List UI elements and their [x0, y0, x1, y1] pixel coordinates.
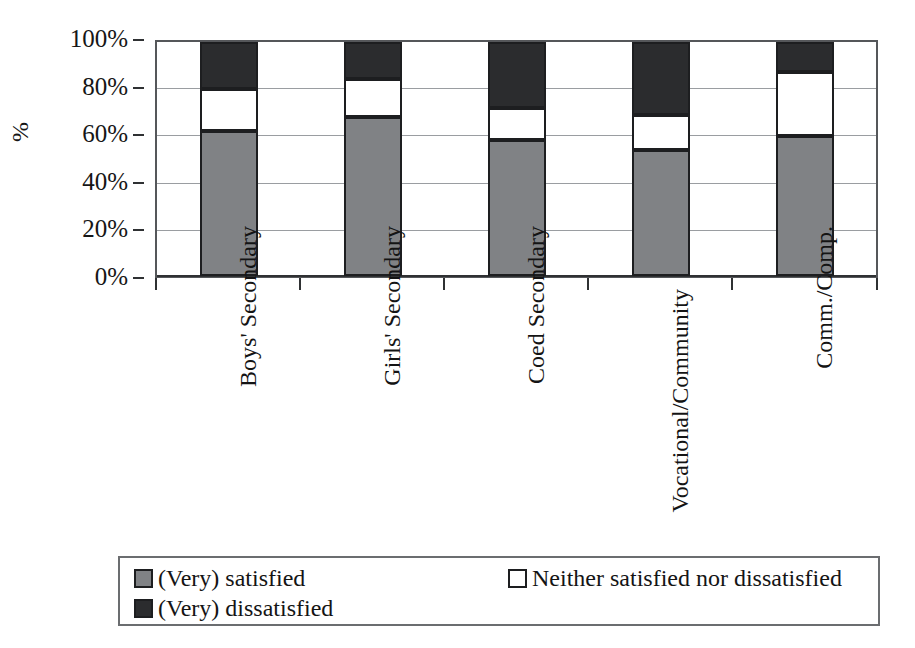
y-tick-mark — [133, 229, 144, 231]
y-tick-label: 0% — [95, 264, 128, 290]
legend-swatch-icon — [134, 569, 153, 588]
plot-area — [155, 40, 878, 278]
legend-item-satisfied[interactable]: (Very) satisfied — [134, 566, 305, 590]
y-tick-mark — [133, 277, 144, 279]
x-tick-mark — [155, 278, 157, 290]
bar-slot-2 — [445, 42, 589, 276]
y-tick-label: 80% — [82, 74, 128, 100]
chart-container: % 100% 80% 60% 40% 20% 0% — [0, 0, 915, 648]
bar-segment[interactable] — [632, 115, 690, 150]
bar-segment[interactable] — [632, 42, 690, 115]
x-axis-label-1: Girls' Secondary — [380, 226, 404, 466]
x-axis-label-0: Boys' Secondary — [236, 226, 260, 466]
x-axis-label-4: Comm./Comp. — [812, 226, 836, 466]
y-tick-label: 40% — [82, 169, 128, 195]
bar-segment[interactable] — [632, 150, 690, 276]
bar-slot-1 — [301, 42, 445, 276]
bar-segment[interactable] — [776, 72, 834, 135]
y-tick-mark — [133, 134, 144, 136]
table-row[interactable] — [632, 42, 690, 276]
x-tick-mark — [876, 278, 878, 290]
y-axis-title: % — [8, 122, 32, 142]
y-tick-label: 20% — [82, 216, 128, 242]
y-axis: 100% 80% 60% 40% 20% 0% — [38, 40, 144, 278]
legend: (Very) satisfied Neither satisfied nor d… — [118, 556, 880, 626]
x-tick-mark — [443, 278, 445, 290]
legend-item-dissatisfied[interactable]: (Very) dissatisfied — [134, 596, 333, 620]
legend-label: (Very) satisfied — [158, 566, 305, 590]
bar-slot-4 — [733, 42, 877, 276]
x-tick-mark — [587, 278, 589, 290]
legend-swatch-icon — [134, 599, 153, 618]
bar-segment[interactable] — [344, 79, 402, 116]
legend-item-neither[interactable]: Neither satisfied nor dissatisfied — [508, 566, 842, 590]
bar-slot-3 — [589, 42, 733, 276]
bar-segment[interactable] — [488, 42, 546, 108]
bar-segment[interactable] — [488, 108, 546, 141]
y-tick-mark — [133, 182, 144, 184]
x-tick-mark — [299, 278, 301, 290]
legend-label: (Very) dissatisfied — [158, 596, 333, 620]
x-axis-label-3: Vocational/Community — [668, 289, 692, 529]
bar-slot-0 — [157, 42, 301, 276]
y-tick-mark — [133, 87, 144, 89]
bar-segment[interactable] — [200, 42, 258, 89]
y-tick-label: 100% — [70, 26, 128, 52]
legend-label: Neither satisfied nor dissatisfied — [532, 566, 842, 590]
y-tick-label: 60% — [82, 121, 128, 147]
x-tick-mark — [731, 278, 733, 290]
y-tick-mark — [133, 39, 144, 41]
bar-segment[interactable] — [776, 42, 834, 72]
legend-swatch-icon — [508, 569, 527, 588]
bar-segment[interactable] — [200, 89, 258, 131]
bar-segment[interactable] — [344, 42, 402, 79]
x-axis-label-2: Coed Secondary — [524, 226, 548, 466]
